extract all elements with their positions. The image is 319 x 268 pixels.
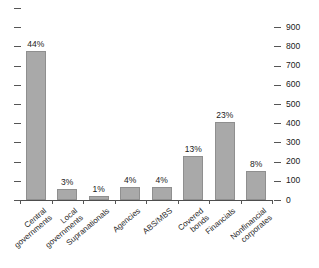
y-tick-right xyxy=(274,142,281,143)
bar-value-label: 44% xyxy=(16,40,56,49)
bar-chart: 0100200300400500600700800900 44%3%1%4%4%… xyxy=(0,0,319,268)
x-axis-category-text: Covered bonds xyxy=(177,207,212,240)
bar-value-label: 8% xyxy=(236,160,276,169)
y-tick-left xyxy=(14,123,21,124)
y-tick-right xyxy=(274,66,281,67)
x-axis-category-text: Agencies xyxy=(112,207,143,235)
y-tick-right xyxy=(274,123,281,124)
y-tick-right xyxy=(274,46,281,47)
y-tick-label: 400 xyxy=(286,119,300,128)
y-tick-label: 700 xyxy=(286,61,300,70)
y-tick-left xyxy=(14,142,21,143)
y-tick-left xyxy=(14,27,21,28)
y-tick-right xyxy=(274,181,281,182)
y-tick-label: 200 xyxy=(286,157,300,166)
y-tick-label: 300 xyxy=(286,138,300,147)
y-tick-left xyxy=(14,85,21,86)
y-tick-left xyxy=(14,104,21,105)
y-tick-label: 600 xyxy=(286,80,300,89)
bar-value-label: 23% xyxy=(205,111,245,120)
y-tick-left xyxy=(14,181,21,182)
y-tick-right xyxy=(274,27,281,28)
y-tick-label: 900 xyxy=(286,23,300,32)
y-tick-label: 500 xyxy=(286,100,300,109)
bar xyxy=(26,51,46,200)
bar xyxy=(215,122,235,200)
y-tick-left xyxy=(14,162,21,163)
y-axis-right xyxy=(272,8,273,200)
y-tick-left-top xyxy=(14,8,21,9)
y-tick-label: 800 xyxy=(286,42,300,51)
x-tick xyxy=(20,200,21,204)
x-axis-category-text: ABS/MBS xyxy=(141,207,174,237)
y-tick-right xyxy=(274,85,281,86)
y-tick-right xyxy=(274,104,281,105)
bar-value-label: 13% xyxy=(173,145,213,154)
y-tick-left xyxy=(14,66,21,67)
